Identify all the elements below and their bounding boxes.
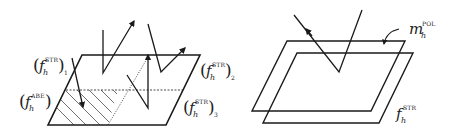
svg-text:h: h [43, 68, 48, 77]
surface-plane-front [263, 53, 413, 123]
svg-text:h: h [421, 31, 426, 40]
svg-text:ABE: ABE [30, 92, 45, 99]
svg-text:POL: POL [422, 20, 436, 27]
pointer-curved-arrow [384, 29, 399, 44]
label-f-str-1: ( f h STR ) 1 [33, 55, 68, 77]
label-f-abe: ( f h ABE ) [19, 91, 52, 113]
svg-text:STR: STR [403, 104, 417, 111]
svg-text:h: h [29, 104, 34, 113]
label-f-str: f h STR [395, 104, 417, 125]
svg-text:h: h [210, 73, 215, 82]
svg-text:STR: STR [195, 98, 209, 105]
label-f-str-2: ( f h STR ) 2 [200, 60, 235, 82]
svg-text:): ) [45, 91, 52, 111]
diagram-canvas: ( f h STR ) 1 ( f h STR ) 2 ( f h ABE ) … [0, 0, 455, 137]
svg-text:h: h [193, 110, 198, 119]
label-m-pol: m h POL [409, 20, 436, 40]
svg-text:2: 2 [231, 74, 235, 81]
svg-text:3: 3 [214, 111, 218, 118]
svg-text:STR: STR [212, 61, 226, 68]
svg-text:h: h [401, 116, 406, 125]
svg-text:STR: STR [45, 56, 59, 63]
reflected-ray-2-arrow [148, 24, 185, 72]
polarizer-plane [252, 41, 405, 111]
label-f-str-3: ( f h STR ) 3 [183, 97, 218, 119]
svg-text:1: 1 [64, 69, 68, 76]
reflected-ray-1-arrow [103, 21, 134, 73]
right-panel [252, 10, 413, 123]
transmitted-ray-arrow [127, 55, 148, 108]
left-panel [31, 21, 200, 135]
